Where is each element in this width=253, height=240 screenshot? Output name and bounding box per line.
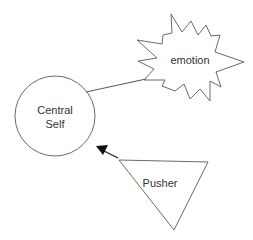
central-self-circle bbox=[15, 76, 95, 156]
pusher-triangle bbox=[119, 160, 208, 230]
central-self-label-line1: Central bbox=[37, 104, 72, 116]
central-self-label-line2: Self bbox=[46, 118, 66, 130]
emotion-label: emotion bbox=[170, 54, 209, 66]
pusher-label: Pusher bbox=[143, 177, 178, 189]
arrowhead-icon bbox=[96, 145, 108, 155]
diagram-canvas: emotion Central Self Pusher bbox=[0, 0, 253, 240]
arrow-pusher-to-self bbox=[104, 151, 118, 158]
connector-self-emotion bbox=[86, 79, 146, 92]
